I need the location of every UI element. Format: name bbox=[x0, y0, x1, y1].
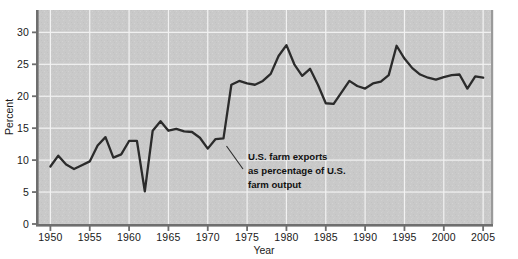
gridline-horizontal bbox=[39, 64, 491, 65]
gridline-vertical bbox=[483, 10, 484, 224]
gridline-vertical bbox=[50, 10, 51, 224]
x-tick-label: 1960 bbox=[117, 231, 141, 243]
gridline-vertical bbox=[365, 10, 366, 224]
gridline-vertical bbox=[128, 10, 129, 224]
x-tick-label: 1990 bbox=[353, 231, 377, 243]
y-tick-label: 30 bbox=[17, 26, 29, 38]
gridline-horizontal bbox=[39, 191, 491, 192]
x-tick-label: 1955 bbox=[78, 231, 102, 243]
y-tick-mark bbox=[32, 127, 37, 129]
annotation-line-1: U.S. farm exports bbox=[248, 151, 327, 162]
y-tick-label: 25 bbox=[17, 58, 29, 70]
gridline-horizontal bbox=[39, 128, 491, 129]
x-tick-label: 1965 bbox=[156, 231, 180, 243]
x-axis-title: Year bbox=[253, 244, 275, 256]
gridline-vertical bbox=[207, 10, 208, 224]
gridline-vertical bbox=[168, 10, 169, 224]
chart-figure: 051015202530 195019551960196519701975198… bbox=[0, 0, 518, 259]
x-tick-label: 1970 bbox=[196, 231, 220, 243]
gridline-vertical bbox=[89, 10, 90, 224]
gridline-vertical bbox=[404, 10, 405, 224]
x-tick-label: 1995 bbox=[392, 231, 416, 243]
x-axis-spine bbox=[36, 224, 493, 227]
y-tick-label: 20 bbox=[17, 90, 29, 102]
y-tick-label: 15 bbox=[17, 122, 29, 134]
x-tick-label: 1950 bbox=[38, 231, 62, 243]
gridline-horizontal bbox=[39, 96, 491, 97]
y-axis-title: Percent bbox=[3, 99, 15, 135]
x-tick-label: 2005 bbox=[471, 231, 495, 243]
x-tick-label: 1980 bbox=[274, 231, 298, 243]
y-tick-mark bbox=[32, 31, 37, 33]
farm-exports-line-chart: 051015202530 195019551960196519701975198… bbox=[0, 0, 518, 259]
y-tick-mark bbox=[32, 95, 37, 97]
plot-right-edge bbox=[491, 10, 493, 224]
gridline-vertical bbox=[325, 10, 326, 224]
annotation-line-3: farm output bbox=[248, 179, 302, 190]
x-tick-label: 2000 bbox=[432, 231, 456, 243]
annotation-line-2: as percentage of U.S. bbox=[248, 165, 346, 176]
y-tick-label: 5 bbox=[23, 186, 29, 198]
gridline-vertical bbox=[246, 10, 247, 224]
y-tick-mark bbox=[32, 191, 37, 193]
y-tick-label: 10 bbox=[17, 154, 29, 166]
gridline-vertical bbox=[286, 10, 287, 224]
y-tick-mark bbox=[32, 223, 37, 225]
x-tick-label: 1975 bbox=[235, 231, 259, 243]
y-tick-label: 0 bbox=[23, 218, 29, 230]
y-tick-mark bbox=[32, 159, 37, 161]
gridline-vertical bbox=[443, 10, 444, 224]
y-tick-mark bbox=[32, 63, 37, 65]
gridline-horizontal bbox=[39, 32, 491, 33]
x-tick-label: 1985 bbox=[314, 231, 338, 243]
